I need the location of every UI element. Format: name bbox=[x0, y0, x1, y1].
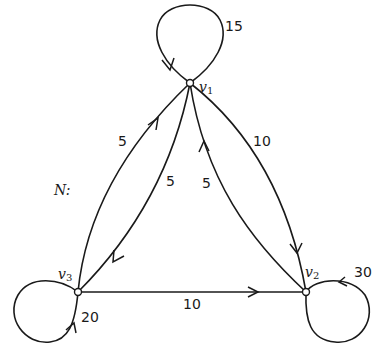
node-v2 bbox=[303, 289, 310, 296]
arrow-v1-v3 bbox=[113, 250, 124, 262]
network-name: N: bbox=[54, 183, 70, 197]
node-v3 bbox=[75, 289, 82, 296]
weight-v3-v1: 5 bbox=[118, 134, 127, 148]
edge-v1-loop bbox=[157, 5, 223, 83]
weight-v3-v2: 10 bbox=[183, 297, 201, 311]
edge-v2-loop bbox=[306, 281, 369, 342]
weight-v3-loop: 20 bbox=[81, 310, 99, 324]
node-label-v3: v3 bbox=[58, 267, 72, 283]
weight-v2-v1: 5 bbox=[202, 176, 211, 190]
node-v1 bbox=[187, 80, 194, 87]
weight-v1-loop: 15 bbox=[225, 19, 243, 33]
node-label-v2: v2 bbox=[305, 265, 319, 281]
node-label-v1: v1 bbox=[199, 80, 213, 96]
arrow-v3-v1 bbox=[148, 118, 158, 130]
network-diagram: N: v1 v2 v3 15 30 20 5 5 10 5 10 bbox=[0, 0, 388, 356]
weight-v1-v2: 10 bbox=[253, 134, 271, 148]
weight-v1-v3: 5 bbox=[166, 174, 175, 188]
edge-v3-loop bbox=[14, 281, 78, 342]
weight-v2-loop: 30 bbox=[354, 265, 372, 279]
